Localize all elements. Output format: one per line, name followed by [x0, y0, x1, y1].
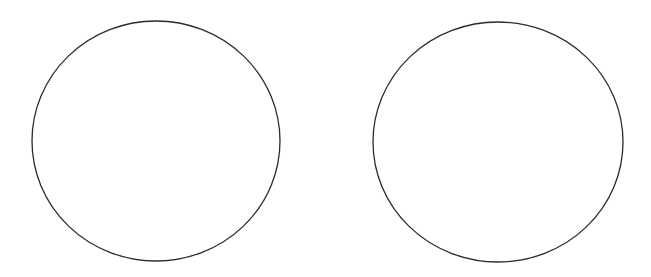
- right-circle: [373, 22, 623, 262]
- left-circle: [32, 21, 280, 261]
- diagram-canvas: [0, 0, 651, 277]
